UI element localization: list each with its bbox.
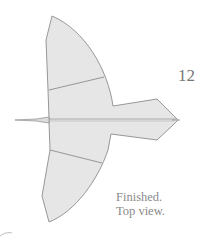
nose-spike [15,117,49,123]
caption-line-1: Finished. [116,190,165,204]
page-corner-mark [0,233,12,236]
step-number: 12 [178,66,195,86]
figure-caption: Finished. Top view. [116,190,165,218]
caption-line-2: Top view. [116,204,165,218]
paper-glider-diagram [0,0,213,238]
